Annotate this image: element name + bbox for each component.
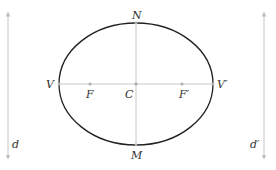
label-v-prime: V′ (217, 78, 228, 91)
label-m: M (130, 149, 143, 162)
label-c: C (125, 88, 134, 101)
label-n: N (131, 9, 142, 22)
focus-point-f-prime (180, 82, 183, 85)
label-f: F (85, 88, 94, 101)
label-d: d (12, 138, 19, 151)
co-vertex-point-m (135, 144, 138, 147)
label-f-prime: F′ (178, 88, 190, 101)
ellipse-diagram: N M V V′ F C F′ d d′ (0, 0, 276, 170)
label-v: V (46, 78, 55, 91)
center-point-c (134, 82, 137, 85)
vertex-point-v-prime (212, 83, 215, 86)
label-d-prime: d′ (250, 138, 260, 151)
focus-point-f (88, 82, 91, 85)
vertex-point-v (58, 83, 61, 86)
co-vertex-point-n (135, 22, 138, 25)
